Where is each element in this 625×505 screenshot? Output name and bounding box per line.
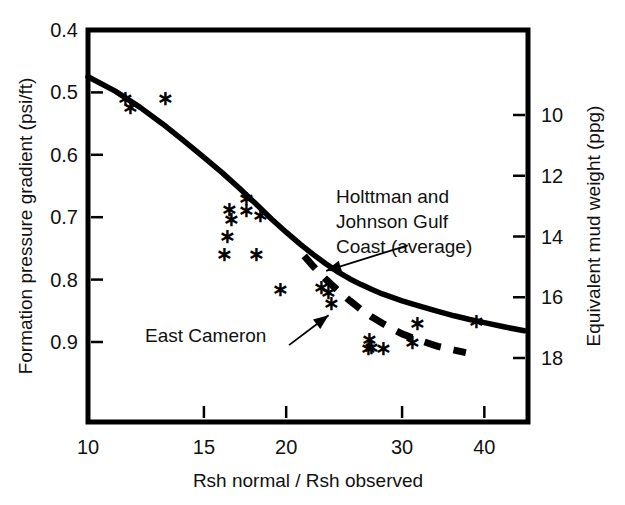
y-right-tick-label-16: 16 — [541, 286, 563, 308]
x-tick-label-10: 10 — [77, 436, 99, 458]
data-point-marker: ∗ — [404, 331, 421, 353]
data-point-marker: ∗ — [272, 278, 289, 300]
y-left-tick-label-0.7: 0.7 — [50, 206, 78, 228]
x-axis-title: Rsh normal / Rsh observed — [193, 470, 423, 491]
data-point-marker: ∗ — [122, 96, 139, 118]
y-right-tick-label-12: 12 — [541, 165, 563, 187]
y-right-tick-label-18: 18 — [541, 347, 563, 369]
annotation-text-line: East Cameron — [145, 325, 266, 346]
data-point-marker: ∗ — [248, 243, 265, 265]
annotation-text-line: Johnson Gulf — [336, 211, 449, 232]
x-tick-label-20: 20 — [275, 436, 297, 458]
y-left-tick-label-0.4: 0.4 — [50, 19, 78, 41]
annotation-text-line: Holttman and — [336, 186, 449, 207]
data-point-marker: ∗ — [252, 204, 269, 226]
y-left-tick-label-0.8: 0.8 — [50, 269, 78, 291]
data-point-marker: ∗ — [323, 292, 340, 314]
x-tick-label-40: 40 — [473, 436, 495, 458]
x-tick-label-15: 15 — [193, 436, 215, 458]
y-axis-right-title: Equivalent mud weight (ppg) — [583, 106, 604, 347]
y-axis-left-title: Formation pressure gradient (psi/ft) — [15, 78, 36, 375]
data-point-marker: ∗ — [157, 87, 174, 109]
data-point-marker: ∗ — [468, 310, 485, 332]
y-right-tick-label-10: 10 — [541, 104, 563, 126]
chart-canvas: 1015203040 0.40.50.60.70.80.9 1012141618… — [0, 0, 625, 505]
y-right-tick-label-14: 14 — [541, 226, 563, 248]
x-tick-label-30: 30 — [391, 436, 413, 458]
y-left-tick-label-0.9: 0.9 — [50, 331, 78, 353]
y-left-tick-label-0.5: 0.5 — [50, 81, 78, 103]
chart-figure: 1015203040 0.40.50.60.70.80.9 1012141618… — [0, 0, 625, 505]
data-point-marker: ∗ — [216, 243, 233, 265]
y-left-tick-label-0.6: 0.6 — [50, 144, 78, 166]
data-point-marker: ∗ — [375, 337, 392, 359]
